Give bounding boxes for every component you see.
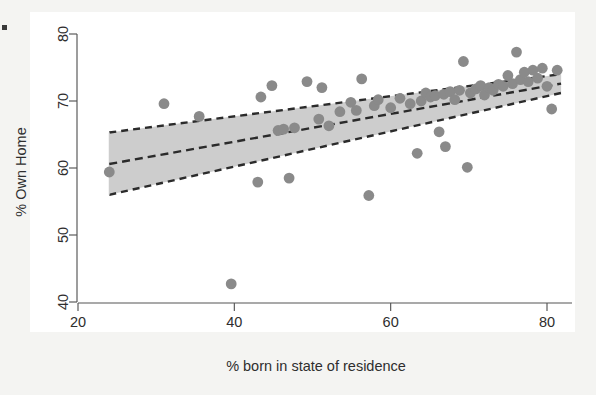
data-point [356,74,367,85]
y-tick-label: 70 [55,93,71,109]
data-point [373,94,384,105]
x-tick-label: 20 [70,314,86,330]
data-point [289,122,300,133]
figure-canvas: 405060708020406080 % born in state of re… [0,0,596,395]
data-point [256,92,267,103]
data-point [412,148,423,159]
data-point [278,124,289,135]
y-tick-label: 40 [55,294,71,310]
y-tick-label: 60 [55,160,71,176]
y-axis-title: % Own Home [13,127,29,216]
data-point [284,173,295,184]
edge-marker [2,25,7,30]
data-point [523,76,534,87]
data-point [302,76,313,87]
y-tick-label: 50 [55,227,71,243]
data-point [104,167,115,178]
data-point [313,114,324,125]
data-point [363,190,374,201]
x-tick-label: 80 [539,314,555,330]
data-point [351,105,362,116]
data-point [159,98,170,109]
data-point [454,85,465,96]
y-tick-label: 80 [55,26,71,42]
data-point [395,93,406,104]
data-point [498,81,509,92]
data-point [546,104,557,115]
data-point [226,279,237,290]
x-tick-label: 40 [226,314,242,330]
data-point [537,63,548,74]
data-point [252,177,263,188]
scatter-plot: 405060708020406080 % born in state of re… [0,0,596,395]
data-point [532,73,543,84]
data-point [449,94,460,105]
x-tick-label: 60 [383,314,399,330]
data-point [440,141,451,152]
data-point [458,56,469,67]
data-point [267,80,278,91]
data-point [324,120,335,131]
data-point [542,81,553,92]
data-point [434,126,445,137]
x-axis-title: % born in state of residence [226,358,406,374]
data-point [385,102,396,113]
data-point [462,162,473,173]
data-point [194,111,205,122]
data-point [317,82,328,93]
data-point [552,65,563,76]
data-point [511,47,522,58]
data-point [405,98,416,109]
data-point [335,106,346,117]
